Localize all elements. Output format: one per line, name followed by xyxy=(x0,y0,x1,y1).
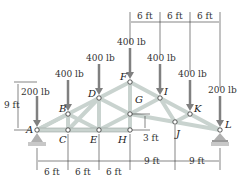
load-label-D: 400 lb xyxy=(86,53,115,63)
node-label-H: H xyxy=(117,134,127,145)
dim-top-2: 6 ft xyxy=(167,11,183,21)
dim-height-left: 9 ft xyxy=(4,100,20,110)
dim-bottom-5: 9 ft xyxy=(189,156,205,166)
node-label-L: L xyxy=(224,119,232,130)
dim-offset-GH: 3 ft xyxy=(143,133,159,143)
dim-top-1: 6 ft xyxy=(137,11,153,21)
dim-bottom-2: 6 ft xyxy=(75,167,91,177)
node-label-D: D xyxy=(87,88,96,99)
dim-bottom-3: 6 ft xyxy=(106,167,122,177)
node-label-F: F xyxy=(119,71,128,82)
node-label-G: G xyxy=(135,94,143,105)
dim-bottom-4: 9 ft xyxy=(144,156,160,166)
truss-diagram: 200 lb 400 lb 400 lb 400 lb 400 lb 400 l… xyxy=(0,0,241,183)
load-label-K: 400 lb xyxy=(178,69,207,79)
support-L xyxy=(211,133,229,146)
node-label-C: C xyxy=(59,134,67,145)
load-label-A: 200 lb xyxy=(21,87,50,97)
load-label-B: 400 lb xyxy=(55,69,84,79)
dim-bottom-1: 6 ft xyxy=(44,167,60,177)
dim-top-3: 6 ft xyxy=(197,11,213,21)
node-label-K: K xyxy=(193,103,202,114)
load-label-F: 400 lb xyxy=(117,37,146,47)
node-label-A: A xyxy=(25,124,33,135)
node-label-B: B xyxy=(58,103,66,114)
node-label-I: I xyxy=(163,86,169,97)
node-label-E: E xyxy=(89,134,98,145)
load-label-L: 200 lb xyxy=(208,85,237,95)
load-label-I: 400 lb xyxy=(147,53,176,63)
